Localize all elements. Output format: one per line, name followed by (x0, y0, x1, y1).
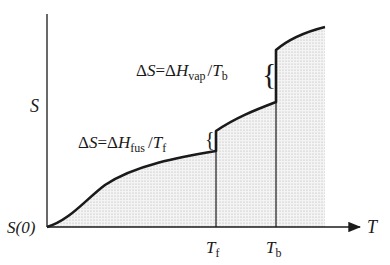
x-axis-label: T (367, 217, 379, 237)
annotation-fusion: ΔS=ΔHfus/Tf (78, 133, 166, 155)
annotation-vaporization: ΔS=ΔHvap/Tb (136, 61, 228, 83)
tick-tb: Tb (266, 238, 281, 260)
entropy-diagram: S T S(0) Tf Tb ΔS=ΔHfus/Tf { ΔS=ΔHvap/Tb… (0, 0, 390, 265)
fusion-brace: { (205, 128, 215, 150)
origin-label: S(0) (7, 218, 36, 237)
y-axis-label: S (30, 96, 39, 116)
tick-tf: Tf (206, 238, 219, 260)
vaporization-brace: { (262, 57, 276, 90)
